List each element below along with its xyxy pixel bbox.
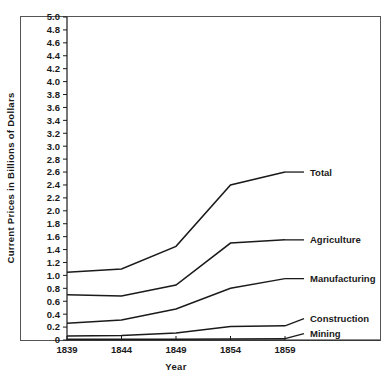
series-label-agriculture: Agriculture: [310, 234, 361, 245]
y-tick-label: 1.8: [47, 218, 60, 229]
series-leader-mining: [285, 334, 304, 339]
series-label-construction: Construction: [310, 313, 369, 324]
series-line-mining: [67, 339, 285, 340]
x-axis-title: Year: [165, 361, 186, 372]
series-leader-construction: [285, 319, 304, 326]
x-tick-label: 1839: [56, 344, 77, 355]
y-tick-label: 2.2: [47, 192, 60, 203]
x-tick-label: 1859: [274, 344, 295, 355]
y-tick-label: 4.4: [47, 50, 61, 61]
series-line-agriculture: [67, 240, 285, 296]
y-tick-label: 2.8: [47, 154, 60, 165]
plot-frame: [21, 17, 381, 341]
series-line-total: [67, 172, 285, 272]
y-tick-label: 1.4: [47, 244, 61, 255]
series-label-manufacturing: Manufacturing: [310, 273, 376, 284]
x-tick-label: 1849: [165, 344, 186, 355]
y-tick-label: 3.0: [47, 141, 60, 152]
series-line-construction: [67, 326, 285, 336]
y-tick-label: 2.0: [47, 205, 60, 216]
y-tick-label: 0.6: [47, 296, 60, 307]
y-axis-title: Current Prices in Billions of Dollars: [5, 92, 16, 263]
y-tick-label: 4.2: [47, 63, 60, 74]
series-labels-group: TotalAgricultureManufacturingConstructio…: [285, 167, 376, 340]
data-series-group: [67, 172, 285, 339]
y-tick-label: 4.8: [47, 24, 60, 35]
y-tick-label: 3.6: [47, 102, 60, 113]
y-tick-label: 4.0: [47, 76, 60, 87]
x-tick-label: 1844: [111, 344, 133, 355]
y-tick-label: 3.4: [47, 115, 61, 126]
chart-figure: 00.20.40.60.81.01.21.41.61.82.02.22.42.6…: [0, 0, 391, 380]
y-tick-label: 1.6: [47, 231, 60, 242]
y-tick-label: 0.4: [47, 309, 61, 320]
y-tick-label: 2.6: [47, 166, 60, 177]
y-tick-label: 5.0: [47, 11, 60, 22]
y-tick-label: 2.4: [47, 179, 61, 190]
y-tick-label: 3.8: [47, 89, 60, 100]
x-tick-label: 1854: [220, 344, 242, 355]
y-tick-label: 3.2: [47, 128, 60, 139]
y-tick-label: 4.6: [47, 37, 60, 48]
series-label-mining: Mining: [310, 328, 341, 339]
y-tick-label: 1.2: [47, 257, 60, 268]
series-label-total: Total: [310, 167, 332, 178]
line-chart: 00.20.40.60.81.01.21.41.61.82.02.22.42.6…: [0, 0, 391, 380]
y-tick-label: 0.8: [47, 283, 60, 294]
x-axis-tick-labels: 18391844184918541859: [56, 344, 295, 355]
y-tick-label: 1.0: [47, 270, 60, 281]
y-tick-label: 0.2: [47, 321, 60, 332]
y-axis-tick-labels: 00.20.40.60.81.01.21.41.61.82.02.22.42.6…: [47, 11, 61, 345]
